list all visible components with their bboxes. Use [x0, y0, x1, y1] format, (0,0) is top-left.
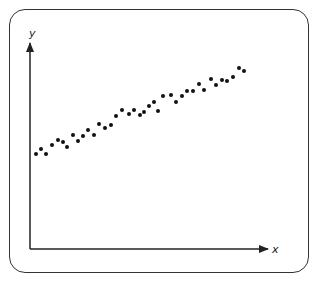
- data-point: [103, 126, 107, 130]
- data-point: [50, 143, 54, 147]
- data-point: [231, 75, 235, 79]
- data-points: [34, 66, 246, 156]
- data-point: [202, 88, 206, 92]
- data-point: [214, 83, 218, 87]
- data-point: [156, 109, 160, 113]
- y-axis-label: y: [28, 27, 36, 40]
- data-point: [152, 100, 156, 104]
- data-point: [220, 78, 224, 82]
- data-point: [114, 114, 118, 118]
- data-point: [191, 89, 195, 93]
- data-point: [174, 100, 178, 104]
- data-point: [142, 110, 146, 114]
- data-point: [169, 93, 173, 97]
- data-point: [132, 108, 136, 112]
- data-point: [92, 133, 96, 137]
- data-point: [237, 66, 241, 70]
- data-point: [97, 122, 101, 126]
- data-point: [34, 152, 38, 156]
- scatter-plot: y x: [0, 0, 319, 284]
- data-point: [56, 138, 60, 142]
- data-point: [39, 147, 43, 151]
- data-point: [138, 113, 142, 117]
- x-axis-label: x: [271, 243, 279, 256]
- data-point: [65, 145, 69, 149]
- data-point: [81, 134, 85, 138]
- data-point: [71, 133, 75, 137]
- data-point: [242, 69, 246, 73]
- data-point: [76, 139, 80, 143]
- data-point: [185, 89, 189, 93]
- data-point: [161, 94, 165, 98]
- data-point: [147, 104, 151, 108]
- data-point: [209, 77, 213, 81]
- data-point: [225, 79, 229, 83]
- data-point: [127, 112, 131, 116]
- data-point: [109, 123, 113, 127]
- data-point: [86, 128, 90, 132]
- data-point: [197, 82, 201, 86]
- data-point: [120, 108, 124, 112]
- data-point: [61, 140, 65, 144]
- data-point: [180, 94, 184, 98]
- data-point: [44, 152, 48, 156]
